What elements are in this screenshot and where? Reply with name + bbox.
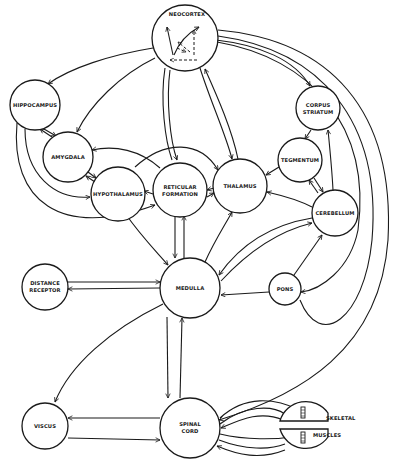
skeletal-label: SKELETAL	[326, 415, 356, 421]
node-skeletal-muscles: SKELETAL MUSCLES	[280, 402, 356, 449]
node-tegmentum: TEGMENTUM	[278, 138, 322, 182]
node-pons: PONS	[269, 273, 301, 305]
edge-corpus-striatum-tegmentum	[305, 130, 311, 139]
edge-thalamus-neocortex-b	[205, 69, 238, 159]
edge-pons-cerebellum	[294, 235, 322, 275]
muscles-label: MUSCLES	[313, 432, 341, 438]
edge-tegmentum-thalamus	[266, 167, 279, 175]
pons-label: PONS	[277, 286, 294, 292]
node-spinal-cord: SPINAL CORD	[160, 398, 220, 458]
edge-viscus-spinal-cord	[68, 438, 160, 440]
medulla-label: MEDULLA	[176, 285, 205, 291]
cerebellum-label: CEREBELLUM	[315, 210, 354, 216]
edge-neocortex-amygdala	[77, 58, 155, 132]
edge-cerebellum-thalamus	[267, 192, 312, 207]
node-neocortex: NEOCORTEX	[152, 5, 218, 71]
hypothalamus-label: HYPOTHALAMUS	[93, 191, 143, 197]
corpus-striatum-label-2: STRIATUM	[303, 109, 334, 115]
node-reticular-formation: RETICULAR FORMATION	[153, 163, 207, 217]
edge-reticular-thalamus	[207, 193, 214, 197]
node-amygdala: AMYGDALA	[43, 132, 93, 182]
edge-medulla-spinal-cord	[167, 317, 168, 398]
node-thalamus: THALAMUS	[213, 159, 267, 213]
reticular-formation-label-2: FORMATION	[162, 191, 198, 197]
distance-receptor-label-2: RECEPTOR	[29, 287, 60, 293]
viscus-label: VISCUS	[34, 423, 56, 429]
distance-receptor-label-1: DISTANCE	[30, 280, 60, 286]
edge-medulla-distance-receptor	[68, 288, 160, 289]
node-viscus: VISCUS	[22, 403, 68, 449]
node-hypothalamus: HYPOTHALAMUS	[91, 167, 145, 221]
node-medulla: MEDULLA	[160, 258, 220, 318]
node-cerebellum: CEREBELLUM	[312, 190, 358, 236]
node-corpus-striatum: CORPUS STRIATUM	[296, 86, 340, 130]
edge-hypothalamus-medulla	[125, 213, 168, 265]
edge-neocortex-reticular-a	[163, 68, 172, 160]
edge-neocortex-reticular-b	[168, 70, 177, 160]
reticular-formation-label-1: RETICULAR	[163, 184, 196, 190]
edge-cerebellum-medulla	[219, 218, 312, 275]
edge-amygdala-hypothalamus	[88, 172, 96, 178]
edge-neocortex-thalamus-a	[200, 68, 232, 159]
hippocampus-label: HIPPOCAMPUS	[13, 102, 57, 108]
spinal-cord-label-2: CORD	[182, 428, 200, 434]
amygdala-label: AMYGDALA	[51, 154, 85, 160]
node-distance-receptor: DISTANCE RECEPTOR	[22, 264, 68, 310]
node-hippocampus: HIPPOCAMPUS	[10, 80, 60, 130]
edge-neocortex-hippocampus	[48, 48, 153, 84]
edge-pons-medulla	[221, 292, 269, 295]
corpus-striatum-label-1: CORPUS	[306, 102, 331, 108]
edge-cerebellum-corpus-striatum	[328, 130, 333, 190]
neocortex-label: NEOCORTEX	[169, 11, 205, 17]
edge-reticular-amygdala	[92, 148, 160, 168]
edge-medulla-thalamus	[205, 212, 232, 262]
thalamus-label: THALAMUS	[223, 183, 256, 189]
edge-spinal-cord-muscles-2	[219, 440, 285, 448]
edge-medulla-cerebellum	[221, 223, 312, 281]
edge-spinal-cord-medulla	[180, 318, 182, 398]
tegmentum-label: TEGMENTUM	[281, 157, 319, 163]
spinal-cord-label-1: SPINAL	[179, 421, 201, 427]
edge-medulla-viscus	[55, 304, 163, 402]
neural-pathway-diagram: NEOCORTEX HIPPOCAMPUS AMYGDALA HYPOTHALA…	[0, 0, 398, 470]
